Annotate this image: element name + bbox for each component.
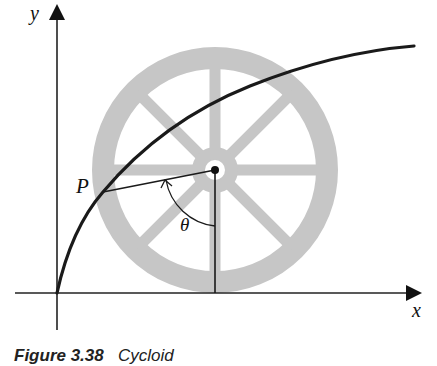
figure-caption: Figure 3.38 Cycloid	[14, 346, 174, 366]
wheel-center-dot	[211, 166, 219, 174]
point-p-label: P	[76, 174, 89, 199]
caption-title: Cycloid	[118, 346, 174, 365]
x-axis-label: x	[412, 299, 421, 322]
caption-label: Figure 3.38	[14, 346, 104, 365]
y-axis-arrow-icon	[49, 4, 65, 20]
theta-label: θ	[180, 214, 189, 236]
y-axis-label: y	[30, 2, 39, 25]
